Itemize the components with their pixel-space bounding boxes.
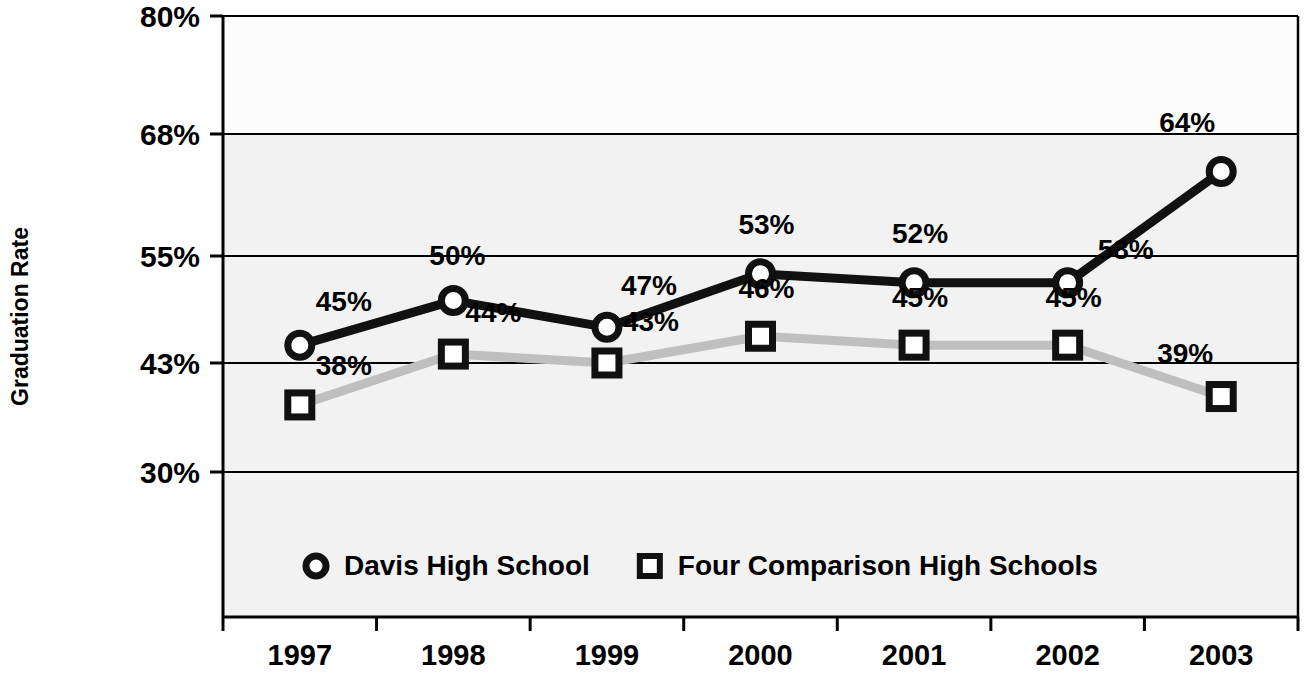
- x-tick-label-1997: 1997: [268, 639, 333, 671]
- data-point-marker: [749, 324, 773, 348]
- davis-value-label-2001: 52%: [892, 218, 948, 249]
- data-point-marker: [595, 351, 619, 375]
- x-tick-label-2001: 2001: [882, 639, 947, 671]
- graduation-rate-chart: 80%68%55%43%30%Graduation Rate1997199819…: [0, 0, 1310, 674]
- y-tick-label: 43%: [140, 347, 200, 380]
- data-point-marker: [595, 315, 619, 339]
- x-tick-label-1999: 1999: [575, 639, 640, 671]
- x-tick-label-2002: 2002: [1035, 639, 1100, 671]
- x-tick-label-2000: 2000: [728, 639, 793, 671]
- data-point-marker: [1209, 160, 1233, 184]
- comparison-value-label-2000: 46%: [738, 273, 794, 304]
- y-axis-title: Graduation Rate: [7, 227, 33, 406]
- comparison-value-label-2003: 39%: [1157, 338, 1213, 369]
- legend-label-comparison: Four Comparison High Schools: [678, 550, 1098, 581]
- data-point-marker: [1056, 333, 1080, 357]
- davis-value-label-1997: 45%: [316, 286, 372, 317]
- x-tick-label-1998: 1998: [421, 639, 486, 671]
- davis-value-label-2003: 64%: [1159, 107, 1215, 138]
- comparison-value-label-1998: 44%: [465, 297, 521, 328]
- davis-value-label-2002: 58%: [1098, 234, 1154, 265]
- chart-canvas: 80%68%55%43%30%Graduation Rate1997199819…: [0, 0, 1310, 674]
- davis-value-label-2000: 53%: [738, 209, 794, 240]
- y-tick-label: 68%: [140, 118, 200, 151]
- legend-circle-marker-icon: [306, 556, 326, 576]
- data-point-marker: [1209, 385, 1233, 409]
- y-tick-label: 80%: [140, 0, 200, 33]
- plot-background-upper: [223, 16, 1298, 134]
- y-tick-label: 55%: [140, 240, 200, 273]
- comparison-value-label-1997: 38%: [316, 350, 372, 381]
- comparison-value-label-2002: 45%: [1046, 282, 1102, 313]
- data-point-marker: [288, 393, 312, 417]
- legend-square-marker-icon: [640, 556, 660, 576]
- y-tick-label: 30%: [140, 456, 200, 489]
- chart-legend: Davis High SchoolFour Comparison High Sc…: [306, 550, 1098, 581]
- data-point-marker: [902, 333, 926, 357]
- comparison-value-label-1999: 43%: [623, 306, 679, 337]
- data-point-marker: [441, 342, 465, 366]
- x-tick-label-2003: 2003: [1189, 639, 1254, 671]
- davis-value-label-1999: 47%: [621, 270, 677, 301]
- davis-value-label-1998: 50%: [429, 240, 485, 271]
- comparison-value-label-2001: 45%: [892, 282, 948, 313]
- legend-label-davis: Davis High School: [344, 550, 590, 581]
- data-point-marker: [288, 333, 312, 357]
- data-point-marker: [441, 289, 465, 313]
